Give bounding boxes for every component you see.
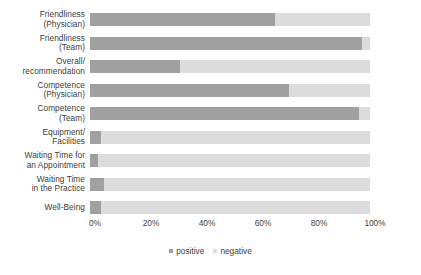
bar-segment-negative <box>359 107 370 120</box>
chart-legend: positive negative <box>0 246 421 256</box>
bar-segment-negative <box>362 37 370 50</box>
bar-segment-positive <box>90 107 359 120</box>
x-tick-label: 40% <box>199 218 216 229</box>
x-tick-label: 20% <box>143 218 160 229</box>
x-axis: 0% 20% 40% 60% 80% 100% <box>95 218 375 232</box>
stacked-bar-chart: Friendliness (Physician) Friendliness (T… <box>0 0 421 275</box>
category-label: Competence (Physician) <box>0 81 90 100</box>
bar-segment-negative <box>98 154 370 167</box>
legend-item-negative[interactable]: negative <box>213 246 251 256</box>
legend-label: negative <box>220 246 251 256</box>
x-tick-label: 100% <box>364 218 385 229</box>
legend-swatch-positive-icon <box>169 249 173 253</box>
category-label: Overall/ recommendation <box>0 57 90 76</box>
chart-plot-area: Friendliness (Physician) Friendliness (T… <box>0 8 421 220</box>
category-label: Equipment/ Facilities <box>0 128 90 147</box>
bar-segment-positive <box>90 131 101 144</box>
bar-track <box>90 201 370 214</box>
bar-row: Overall/ recommendation <box>0 55 421 79</box>
bar-row: Competence (Team) <box>0 102 421 126</box>
bar-row: Waiting Time for an Appointment <box>0 149 421 173</box>
category-label: Friendliness (Physician) <box>0 10 90 29</box>
bar-segment-positive <box>90 201 101 214</box>
bar-segment-positive <box>90 178 104 191</box>
bar-track <box>90 13 370 26</box>
bar-track <box>90 154 370 167</box>
bar-segment-negative <box>275 13 370 26</box>
bar-row: Friendliness (Physician) <box>0 8 421 32</box>
bar-row: Friendliness (Team) <box>0 32 421 56</box>
bar-row: Well-Being <box>0 196 421 220</box>
bar-row: Competence (Physician) <box>0 79 421 103</box>
x-tick-label: 60% <box>255 218 272 229</box>
bar-segment-negative <box>101 201 370 214</box>
bar-row: Equipment/ Facilities <box>0 126 421 150</box>
bar-segment-positive <box>90 13 275 26</box>
bar-track <box>90 60 370 73</box>
x-tick-label: 0% <box>89 218 101 229</box>
bar-segment-positive <box>90 154 98 167</box>
legend-swatch-negative-icon <box>213 249 217 253</box>
bar-segment-negative <box>104 178 370 191</box>
legend-item-positive[interactable]: positive <box>169 246 204 256</box>
category-label: Friendliness (Team) <box>0 34 90 53</box>
bar-segment-positive <box>90 37 362 50</box>
bar-segment-negative <box>180 60 370 73</box>
x-tick-label: 80% <box>311 218 328 229</box>
bar-track <box>90 178 370 191</box>
category-label: Waiting Time in the Practice <box>0 175 90 194</box>
bar-segment-positive <box>90 60 180 73</box>
bar-row: Waiting Time in the Practice <box>0 173 421 197</box>
category-label: Competence (Team) <box>0 104 90 123</box>
category-label: Waiting Time for an Appointment <box>0 151 90 170</box>
bar-segment-positive <box>90 84 289 97</box>
legend-label: positive <box>176 246 204 256</box>
bar-track <box>90 131 370 144</box>
bar-track <box>90 37 370 50</box>
bar-segment-negative <box>101 131 370 144</box>
bar-track <box>90 107 370 120</box>
bar-segment-negative <box>289 84 370 97</box>
bar-track <box>90 84 370 97</box>
category-label: Well-Being <box>0 203 90 213</box>
